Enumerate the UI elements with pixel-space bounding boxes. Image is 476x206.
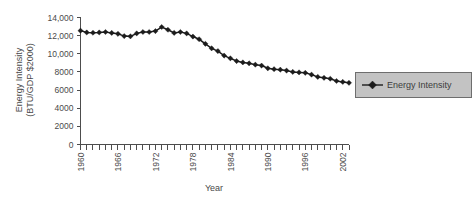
series-data-point [84,30,89,35]
series-data-point [140,29,145,34]
series-data-point [134,31,139,36]
series-line [81,27,350,83]
y-tick-label: 14,000 [48,13,74,23]
series-data-point [147,29,152,34]
series-data-point [122,34,127,39]
x-tick-label: 1972 [151,152,161,171]
series-data-point [90,30,95,35]
y-tick-label: 0 [69,140,74,150]
x-tick-label: 1966 [113,152,123,171]
series-data-point [128,34,133,39]
series-data-point [103,29,108,34]
series-data-point [278,67,283,72]
series-data-point [271,67,276,72]
series-data-point [303,70,308,75]
y-axis-title: Energy Intensity (BTU/GDP $2000) [14,43,35,116]
series-data-point [228,56,233,61]
y-tick-label: 2000 [55,121,74,131]
line-chart: Energy Intensity (BTU/GDP $2000) 0200040… [0,0,476,206]
series-data-point [240,60,245,65]
y-tick-label: 4000 [55,103,74,113]
x-axis-title: Year [205,183,223,193]
data-series-energy-intensity [78,24,352,85]
series-data-point [184,31,189,36]
series-data-point [165,27,170,32]
series-data-point [296,70,301,75]
series-data-point [346,80,351,85]
x-tick-label: 1978 [188,152,198,171]
x-tick-label: 1990 [263,152,273,171]
chart-legend[interactable]: Energy Intensity [356,73,472,98]
y-tick-label: 12,000 [48,31,74,41]
series-data-point [178,29,183,34]
series-data-point [340,79,345,84]
series-data-point [265,66,270,71]
series-data-point [334,78,339,83]
series-data-point [78,28,83,33]
series-data-point [115,31,120,36]
series-data-point [246,61,251,66]
x-tick-label: 1984 [226,152,236,171]
series-data-point [109,30,114,35]
x-tick-label: 2002 [338,152,348,171]
series-data-point [309,72,314,77]
series-data-point [290,69,295,74]
series-data-point [259,63,264,68]
y-tick-label: 8000 [55,67,74,77]
y-axis-title-line1: Energy Intensity [14,47,24,112]
series-data-point [321,75,326,80]
series-data-point [190,34,195,39]
y-axis-ticks: 0200040006000800010,00012,00014,000 [48,13,81,150]
series-data-point [284,68,289,73]
x-tick-label: 1960 [76,152,86,171]
legend-label-energy-intensity: Energy Intensity [387,80,452,90]
series-data-point [315,74,320,79]
x-axis-ticks: 19601966197219781984199019962002 [76,145,349,172]
y-tick-label: 6000 [55,85,74,95]
y-tick-label: 10,000 [48,49,74,59]
series-data-point [234,58,239,63]
series-data-point [328,76,333,81]
series-data-point [253,62,258,67]
chart-container: Energy Intensity (BTU/GDP $2000) 0200040… [0,0,476,206]
y-axis-title-line2: (BTU/GDP $2000) [25,43,35,116]
series-data-point [172,30,177,35]
x-tick-label: 1996 [300,152,310,171]
series-data-point [97,30,102,35]
